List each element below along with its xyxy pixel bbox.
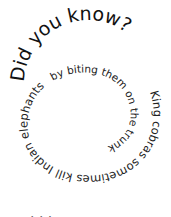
- cut-off-text: · · ·: [30, 209, 52, 217]
- fact-text-outer: King cobras sometimes kill Indian elepha…: [16, 79, 164, 187]
- fact-text-inner: by biting them on the trunk: [48, 62, 141, 156]
- spiral-text-graphic: Did you know? King cobras sometimes kill…: [0, 0, 171, 217]
